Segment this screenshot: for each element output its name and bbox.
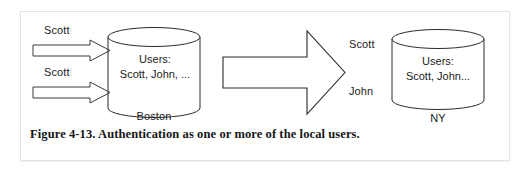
large-right-arrow-icon — [223, 31, 345, 114]
ny-database-contents: Users: Scott, John... — [394, 54, 482, 84]
figure-diagram-svg — [0, 0, 529, 179]
ny-database-label: NY — [392, 112, 484, 124]
boston-users-heading: Users: — [112, 52, 198, 67]
ny-users-list: Scott, John... — [394, 69, 482, 84]
figure-caption: Figure 4-13. Authentication as one or mo… — [30, 127, 360, 142]
figure-container: Scott Scott Users: Scott, John, ... Bost… — [0, 0, 529, 179]
boston-database-label: Boston — [108, 110, 200, 122]
boston-users-list: Scott, John, ... — [112, 67, 198, 82]
mapped-user-label-john: John — [349, 85, 373, 97]
right-arrow-icon-top — [33, 40, 110, 61]
mapped-user-label-scott: Scott — [349, 38, 375, 50]
right-arrow-icon-bottom — [33, 82, 110, 103]
ny-users-heading: Users: — [394, 54, 482, 69]
boston-database-contents: Users: Scott, John, ... — [112, 52, 198, 82]
request-label-scott-top: Scott — [44, 24, 70, 36]
request-label-scott-bottom: Scott — [44, 66, 70, 78]
